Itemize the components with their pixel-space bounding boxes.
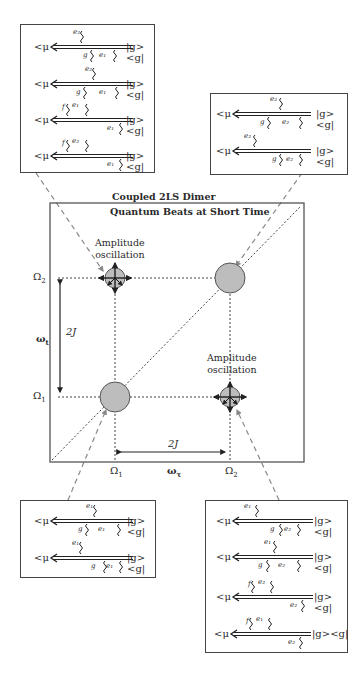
feynman-box-top-right: <μ e₂ g e₂ |g><g| <μ e₂ g e₂ |g><g|	[210, 93, 348, 175]
feynman-box-top-left: <μ e₂ g e₁ |g><g| <μ e₂ g e₁ |g><g| <μ f…	[20, 24, 155, 173]
connector-bottom-left	[68, 410, 106, 500]
amplitude-label-lower: Amplitude oscillation	[207, 352, 257, 376]
amplitude-label-upper: Amplitude oscillation	[95, 237, 145, 261]
feynman-diagram: <μ f e₁ e₁ |g><g|	[21, 102, 156, 136]
connector-top-right	[236, 173, 302, 266]
x-tick-omega1: Ω1	[110, 465, 123, 479]
feynman-diagram: <μ f e₂ e₂ |g><g|	[206, 579, 349, 613]
peak-cross-upper-left	[99, 263, 131, 293]
y-axis-label: ωt	[36, 333, 49, 347]
y-tick-omega2: Ω2	[33, 271, 46, 285]
double-arrow-icon	[231, 539, 321, 573]
connector-top-left	[36, 173, 103, 271]
y-tick-omega1: Ω1	[33, 390, 46, 404]
peak-cross-lower-right	[214, 382, 246, 412]
feynman-box-bottom-left: <μ e₁ g e₁ |g><g| <μ e₁ g e₁ |g><g|	[20, 500, 156, 578]
diagonal-line	[52, 207, 300, 460]
feynman-diagram: <μ e₂ g e₁ |g><g|	[21, 66, 156, 100]
feynman-diagram: <μ e₂ g e₂ |g><g|	[211, 133, 349, 167]
feynman-diagram: <μ f e₁ e₂ |g><g|	[206, 616, 349, 650]
x-axis-label: ωτ	[167, 465, 181, 479]
x-tick-omega2: Ω2	[225, 465, 238, 479]
double-arrow-icon	[231, 579, 321, 613]
feynman-diagram: <μ e₁ g e₂ |g><g|	[206, 539, 349, 573]
feynman-diagram: <μ e₂ g e₁ |g><g|	[21, 29, 156, 63]
feynman-diagram: <μ e₂ g e₂ |g><g|	[211, 96, 349, 130]
feynman-diagram: <μ e₁ g e₂ |g><g|	[206, 503, 349, 537]
peak-diagonal-omega2	[215, 263, 245, 293]
figure-title: Coupled 2LS Dimer	[112, 191, 215, 202]
feynman-diagram: <μ e₁ g e₁ |g><g|	[21, 503, 157, 537]
feynman-box-bottom-right: <μ e₁ g e₂ |g><g| <μ e₁ g e₂ |g><g| <μ f…	[205, 500, 348, 653]
x-splitting-label: 2J	[168, 438, 178, 449]
double-arrow-icon	[49, 503, 139, 537]
feynman-diagram: <μ f e₂ e₁ |g><g|	[21, 138, 156, 172]
connector-bottom-right	[237, 410, 279, 500]
peak-diagonal-omega1	[100, 382, 130, 412]
figure-subtitle: Quantum Beats at Short Time	[110, 206, 270, 217]
feynman-diagram: <μ e₁ g e₁ |g><g|	[21, 540, 157, 574]
y-splitting-label: 2J	[66, 326, 76, 337]
double-arrow-icon	[229, 616, 319, 650]
